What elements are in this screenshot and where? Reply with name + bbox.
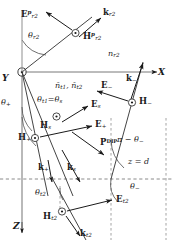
vector-label-H-r2-p: Hpr2 bbox=[83, 32, 101, 42]
vector-label-E-s: Es bbox=[91, 100, 101, 110]
vector-label-k-minus: k− bbox=[126, 74, 137, 84]
vector-label-H-t2: Ht2 bbox=[43, 212, 57, 222]
arrow-E-minus bbox=[97, 91, 128, 101]
vector-label-H-minus: H− bbox=[139, 97, 152, 107]
boundary-label-z-equals-d: z = d bbox=[128, 158, 149, 166]
angle-label-pi-minus-theta-minus: π − θ− bbox=[117, 136, 144, 145]
marker-H-r2-p-out-of-page bbox=[72, 29, 79, 36]
vector-label-E-t2: Et2 bbox=[116, 195, 128, 205]
angle-label-theta-minus: θ− bbox=[130, 183, 140, 192]
vector-label-H-s: Hs bbox=[40, 121, 51, 131]
arrow-E-t2 bbox=[67, 200, 112, 211]
arrow-E-r2-p bbox=[46, 12, 72, 30]
index-label-n-r2: nr2 bbox=[108, 50, 120, 59]
angle-label-theta-r2: θr2 bbox=[28, 32, 39, 41]
arrow-E-s bbox=[62, 106, 88, 122]
vector-label-k-s: ks bbox=[67, 163, 76, 173]
vector-label-P-dip: PDIP bbox=[100, 138, 117, 147]
axis-label-z: Z bbox=[13, 222, 20, 231]
vector-label-E-plus: E+ bbox=[95, 120, 106, 130]
vector-label-k-plus: k+ bbox=[38, 163, 49, 173]
angle-label-theta-t1-eq-theta-s: θt1=θs bbox=[37, 96, 62, 105]
marker-H-s-out-of-page bbox=[53, 113, 60, 120]
ray-r2-upper bbox=[22, 17, 92, 72]
marker-H-minus-out-of-page bbox=[128, 99, 135, 106]
angle-label-theta-plus: θ+ bbox=[1, 99, 11, 108]
figure-canvas: Y X Z nr2 ñt1, ñt2 z = d Epr2 kr2 Hpr2… bbox=[0, 0, 172, 240]
index-label-n-t1-t2: ñt1, ñt2 bbox=[55, 82, 82, 91]
vector-label-H-plus: H+ bbox=[18, 133, 31, 143]
vector-label-k-r2: kr2 bbox=[103, 8, 115, 18]
vector-label-E-r2-p: Epr2 bbox=[21, 10, 38, 20]
vector-label-k-t2: kt2 bbox=[80, 229, 92, 239]
angle-label-theta-t2: θt2 bbox=[35, 189, 46, 198]
marker-H-plus-out-of-page bbox=[31, 134, 38, 141]
marker-H-t2-out-of-page bbox=[58, 208, 65, 215]
axis-label-x: X bbox=[158, 68, 165, 77]
arc-theta-r2 bbox=[22, 40, 46, 55]
vector-label-E-minus: E− bbox=[101, 81, 112, 91]
axis-label-y: Y bbox=[2, 74, 8, 83]
